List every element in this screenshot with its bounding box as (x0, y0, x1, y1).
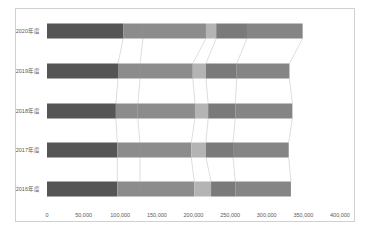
bar-segment (47, 24, 123, 39)
bar-segment (118, 64, 140, 79)
bar-segment (247, 24, 303, 39)
series-connector-line (138, 79, 140, 104)
bar-segment (193, 64, 206, 79)
bar-segment (47, 104, 116, 119)
y-axis-label: 2018年度 (16, 107, 40, 115)
bar-segment (47, 64, 118, 79)
series-connector-line (193, 39, 206, 64)
bar-segment (140, 64, 193, 79)
series-connector-line (289, 79, 292, 104)
bar-segment (116, 104, 138, 119)
series-connector-line (206, 39, 216, 64)
bar-segment (194, 182, 211, 197)
x-axis-tick-label: 300,000 (257, 212, 277, 218)
x-axis-tick-label: 100,000 (110, 212, 130, 218)
bar-segment (117, 182, 140, 197)
series-connector-line (289, 119, 293, 143)
y-axis-label: 2017年度 (16, 146, 40, 154)
bar-segment (195, 104, 208, 119)
bar-segment (47, 143, 117, 158)
bar-segment (191, 143, 206, 158)
bar-segment (237, 64, 290, 79)
bar-segment (216, 24, 247, 39)
bar-segment (206, 143, 233, 158)
x-axis-tick-label: 400,000 (330, 212, 350, 218)
x-axis-tick-label: 50,000 (75, 212, 92, 218)
bar-segment (235, 104, 292, 119)
y-axis-label: 2016年度 (16, 185, 40, 193)
bar-segment (47, 182, 117, 197)
series-connector-line (206, 158, 211, 182)
series-connector-line (237, 39, 247, 64)
x-axis-tick-label: 200,000 (184, 212, 204, 218)
series-connector-line (206, 119, 208, 143)
bar-segment (233, 143, 289, 158)
bar-segment (143, 24, 206, 39)
series-connector-line (191, 158, 194, 182)
y-axis-label: 2019年度 (16, 67, 40, 75)
bar-segment (138, 104, 195, 119)
series-connector-line (140, 39, 143, 64)
series-connector-line (191, 119, 195, 143)
bar-segment (206, 24, 216, 39)
series-connector-line (193, 79, 195, 104)
x-axis-tick-label: 250,000 (220, 212, 240, 218)
series-connector-line (289, 39, 302, 64)
series-connector-line (233, 158, 235, 182)
bar-segment (140, 143, 191, 158)
series-connector-line (116, 79, 118, 104)
series-connector-line (118, 39, 123, 64)
series-connector-line (206, 79, 208, 104)
series-connector-line (138, 119, 140, 143)
x-axis-tick-label: 350,000 (293, 212, 313, 218)
series-connector-line (235, 79, 236, 104)
x-axis-tick-label: 150,000 (147, 212, 167, 218)
x-axis-tick-label: 0 (45, 212, 48, 218)
stacked-bar-chart: 2020年度2019年度2018年度2017年度2016年度050,000100… (0, 0, 375, 239)
bar-segment (208, 104, 235, 119)
bar-segment (235, 182, 291, 197)
bar-segment (206, 64, 237, 79)
series-connector-line (116, 119, 117, 143)
bar-segment (117, 143, 140, 158)
bar-segment (140, 182, 194, 197)
bar-segment (211, 182, 235, 197)
y-axis-label: 2020年度 (16, 27, 40, 35)
series-connector-line (233, 119, 235, 143)
bar-segment (123, 24, 143, 39)
series-connector-line (289, 158, 291, 182)
